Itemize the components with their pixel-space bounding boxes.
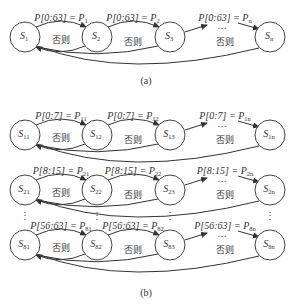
fig-a-condition-label: P[0:63] = P1 xyxy=(33,12,87,24)
fig-b-row-1-condition-label: P[0:7] = P11 xyxy=(34,110,86,122)
fig-b-row-2-transition-arrow-3 xyxy=(185,178,207,185)
fig-b-row-2-ellipsis: … xyxy=(217,173,227,184)
fig-b-row-1-else-label: 否则 xyxy=(52,132,70,143)
fig-a-else-label: 否则 xyxy=(124,36,142,47)
fig-b-row-3-condition-label: P[56:63] = P81 xyxy=(29,220,92,232)
vertical-ellipsis: ⋮ xyxy=(20,210,30,221)
fig-a-transition-arrow-3 xyxy=(185,25,207,32)
state-diagram: S1S2S3SnP[0:63] = P1P[0:63] = P2P[0:63] … xyxy=(0,0,291,306)
fig-b-row-1-condition-label: P[0:7] = P12 xyxy=(106,110,159,122)
fig-a-else-label: 否则 xyxy=(52,34,70,45)
figure-b-caption: (b) xyxy=(140,287,152,299)
fig-b-row-1-transition-arrow-3 xyxy=(185,123,207,130)
fig-b-row-2-condition-label: P[8:15] = P22 xyxy=(104,165,162,177)
figure-a-caption: (a) xyxy=(140,75,151,87)
fig-b-row-2-condition-label: P[8:15] = P21 xyxy=(32,165,90,177)
fig-a-else-label: 否则 xyxy=(216,36,234,47)
fig-b-row-3-else-label: 否则 xyxy=(124,244,142,255)
fig-b-row-3-else-label: 否则 xyxy=(52,242,70,253)
fig-b-row-3-ellipsis: … xyxy=(217,228,227,239)
fig-b-row-1-else-label: 否则 xyxy=(216,134,234,145)
vertical-ellipsis: ⋮ xyxy=(265,210,275,221)
vertical-ellipsis: ⋮ xyxy=(165,210,175,221)
fig-b-row-2-else-label: 否则 xyxy=(124,189,142,200)
fig-b-row-3-else-label: 否则 xyxy=(216,244,234,255)
fig-b-row-1-ellipsis: … xyxy=(217,118,227,129)
fig-b-row-1-else-label: 否则 xyxy=(124,134,142,145)
vertical-ellipsis: ⋮ xyxy=(92,210,102,221)
fig-b-row-2-else-label: 否则 xyxy=(216,189,234,200)
fig-a-ellipsis: … xyxy=(217,20,227,31)
fig-b-row-2-else-label: 否则 xyxy=(52,187,70,198)
fig-b-row-3-condition-label: P[56:63] = P82 xyxy=(101,220,164,232)
fig-a-condition-label: P[0:63] = P2 xyxy=(105,12,159,24)
fig-b-row-3-transition-arrow-3 xyxy=(185,233,207,240)
